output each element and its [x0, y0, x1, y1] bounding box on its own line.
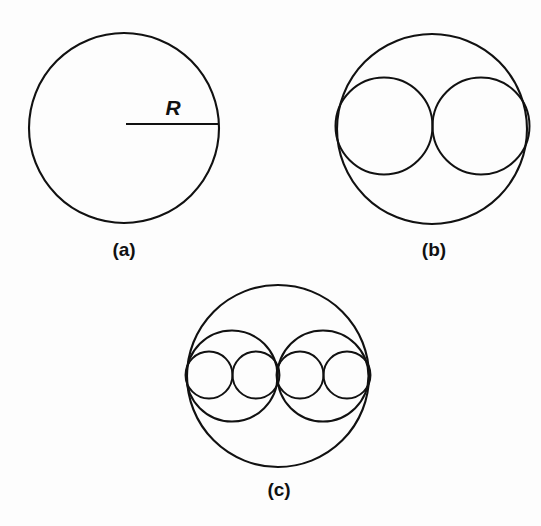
- figure-container: R (a) (b) (c): [0, 0, 541, 526]
- panel-c-small-circle-4: [324, 352, 371, 399]
- panel-c-small-circle-2: [233, 352, 280, 399]
- panel-caption-a: (a): [112, 239, 135, 261]
- panel-b-inner-circle-right: [433, 78, 530, 175]
- panel-a-outer-circle: [29, 33, 219, 223]
- panel-b-group: [336, 34, 530, 224]
- panel-c-small-circle-1: [186, 352, 233, 399]
- radius-label: R: [165, 96, 180, 120]
- panel-b-inner-circle-left: [336, 78, 433, 175]
- panel-caption-c: (c): [267, 479, 290, 501]
- panel-c-group: [186, 285, 371, 467]
- panel-c-small-circle-3: [277, 352, 324, 399]
- panel-caption-b: (b): [422, 239, 446, 261]
- figure-canvas: [0, 0, 541, 526]
- panel-a-group: [29, 33, 219, 223]
